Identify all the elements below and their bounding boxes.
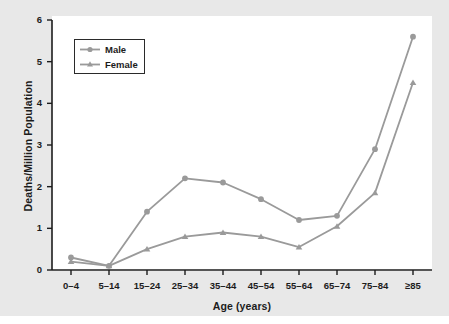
- data-point: [372, 146, 378, 152]
- data-point: [296, 217, 302, 223]
- chart-canvas: [0, 0, 449, 324]
- y-tick-label: 3: [18, 139, 42, 150]
- data-point: [410, 79, 417, 85]
- legend-label-female: Female: [105, 59, 138, 70]
- y-tick-label: 5: [18, 56, 42, 67]
- y-tick-label: 6: [18, 14, 42, 25]
- legend-marker-triangle-icon: [79, 59, 101, 70]
- y-tick-label: 1: [18, 222, 42, 233]
- y-tick-label: 2: [18, 181, 42, 192]
- data-point: [258, 196, 264, 202]
- data-point: [220, 180, 226, 186]
- chart-legend: Male Female: [74, 39, 145, 74]
- chart-figure: Deaths/Million Population Age (years) 01…: [0, 0, 449, 324]
- legend-entry-female: Female: [79, 57, 138, 72]
- legend-marker-circle-icon: [79, 44, 101, 55]
- figure-bottom-strip: [0, 316, 449, 324]
- y-tick-label: 4: [18, 97, 42, 108]
- data-point: [144, 209, 150, 215]
- legend-entry-male: Male: [79, 42, 126, 57]
- data-point: [372, 190, 379, 196]
- x-tick-label: ≥85: [391, 280, 435, 291]
- series-female: [68, 79, 417, 268]
- data-point: [182, 175, 188, 181]
- data-point: [410, 34, 416, 40]
- data-point: [334, 213, 340, 219]
- legend-label-male: Male: [105, 44, 126, 55]
- y-tick-label: 0: [18, 264, 42, 275]
- x-axis-title: Age (years): [52, 300, 432, 312]
